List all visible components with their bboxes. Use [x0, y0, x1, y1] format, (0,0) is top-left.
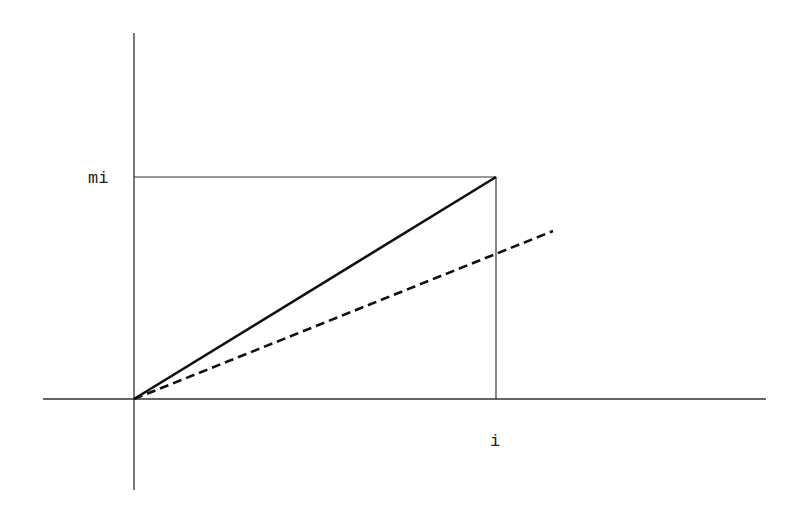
label-i: i [490, 432, 500, 451]
solid-line [134, 177, 496, 399]
diagram-canvas: mi i [0, 0, 799, 511]
dashed-line [134, 231, 553, 399]
label-mi: mi [88, 169, 108, 188]
